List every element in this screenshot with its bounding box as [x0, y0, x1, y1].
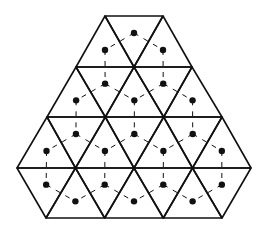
- lattice-triangle: [164, 67, 222, 117]
- lattice-triangle: [105, 16, 163, 67]
- centroid-dot: [219, 181, 225, 187]
- lattice-edges: [17, 16, 251, 218]
- lattice-triangle: [76, 16, 134, 67]
- centroid-dot: [131, 30, 137, 36]
- centroid-dot: [102, 181, 108, 187]
- lattice-triangle: [105, 67, 163, 117]
- centroid-dot: [160, 181, 166, 187]
- lattice-triangle: [17, 117, 76, 168]
- centroid-dot: [131, 131, 137, 137]
- centroid-dot: [219, 148, 225, 154]
- centroid-dot: [160, 47, 166, 53]
- lattice-triangle: [47, 67, 105, 117]
- lattice-triangle: [46, 168, 105, 218]
- centroid-dot: [189, 198, 195, 204]
- centroid-dot: [73, 131, 79, 137]
- lattice-triangle: [134, 117, 193, 168]
- centroid-dot: [102, 47, 108, 53]
- centroid-dot: [131, 198, 137, 204]
- centroid-dot: [43, 181, 49, 187]
- lattice-triangle: [163, 168, 222, 218]
- lattice-triangle: [76, 117, 135, 168]
- centroid-dot: [102, 148, 108, 154]
- centroid-dot: [160, 80, 166, 86]
- centroid-dot: [131, 97, 137, 103]
- centroid-dot: [43, 148, 49, 154]
- lattice-triangle: [134, 16, 192, 67]
- lattice-triangle: [193, 117, 252, 168]
- lattice-triangle: [105, 168, 164, 218]
- centroid-dot: [73, 97, 79, 103]
- triangular-lattice-diagram: [0, 0, 264, 231]
- centroid-dot: [190, 131, 196, 137]
- centroid-dot: [102, 80, 108, 86]
- centroid-dot: [160, 148, 166, 154]
- centroid-dot: [189, 97, 195, 103]
- centroid-dot: [72, 198, 78, 204]
